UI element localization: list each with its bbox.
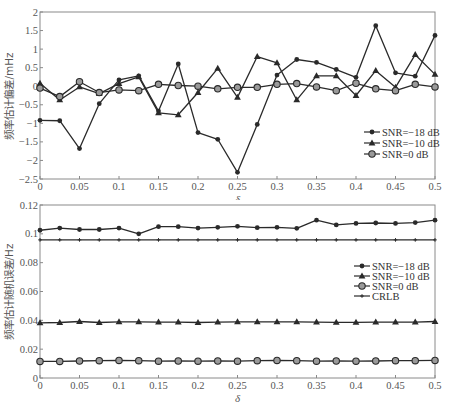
circle-marker-icon <box>333 358 339 364</box>
dot-marker-icon <box>373 221 378 226</box>
circle-marker-icon <box>392 358 398 364</box>
plus-marker-icon <box>275 238 279 242</box>
x-axis-label: δ <box>235 392 241 404</box>
plus-marker-icon <box>97 238 101 242</box>
plus-marker-icon <box>315 238 319 242</box>
dot-marker-icon <box>77 227 82 232</box>
circle-marker-icon <box>274 357 280 363</box>
circle-marker-icon <box>96 358 102 364</box>
y-tick-label: 0.12 <box>20 200 38 211</box>
triangle-marker-icon <box>76 318 83 324</box>
circle-marker-icon <box>359 283 365 289</box>
x-tick-label: 0.3 <box>270 380 283 391</box>
dot-marker-icon <box>413 220 418 225</box>
plus-marker-icon <box>38 238 42 242</box>
dot-marker-icon <box>176 224 181 229</box>
circle-marker-icon <box>136 358 142 364</box>
x-tick-label: 0.45 <box>386 380 404 391</box>
circle-marker-icon <box>76 358 82 364</box>
y-tick-label: 0 <box>33 373 38 384</box>
random-error-chart: 00.050.10.150.20.250.30.350.40.450.500.0… <box>0 0 453 410</box>
series-triangle <box>37 318 439 325</box>
dot-marker-icon <box>215 225 220 230</box>
y-tick-label: 0.02 <box>20 344 38 355</box>
circle-marker-icon <box>353 358 359 364</box>
legend-label: CRLB <box>372 291 399 302</box>
dot-marker-icon <box>275 225 280 230</box>
circle-marker-icon <box>254 358 260 364</box>
circle-marker-icon <box>234 358 240 364</box>
plus-marker-icon <box>360 294 364 298</box>
x-axis-ticks: 00.050.10.150.20.250.30.350.40.450.5 <box>37 375 441 391</box>
plus-marker-icon <box>413 238 417 242</box>
dot-marker-icon <box>57 226 62 231</box>
circle-marker-icon <box>195 358 201 364</box>
plus-marker-icon <box>117 238 121 242</box>
series-dot <box>38 218 438 236</box>
x-tick-label: 0.35 <box>307 380 325 391</box>
circle-marker-icon <box>373 358 379 364</box>
dot-marker-icon <box>354 221 359 226</box>
plus-marker-icon <box>334 238 338 242</box>
dot-marker-icon <box>196 226 201 231</box>
circle-marker-icon <box>432 357 438 363</box>
dot-marker-icon <box>136 231 141 236</box>
circle-marker-icon <box>215 358 221 364</box>
dot-marker-icon <box>255 225 260 230</box>
dot-marker-icon <box>314 218 319 223</box>
circle-marker-icon <box>116 357 122 363</box>
circle-marker-icon <box>155 358 161 364</box>
plus-marker-icon <box>236 238 240 242</box>
dot-marker-icon <box>334 222 339 227</box>
y-tick-label: 0.04 <box>20 315 39 326</box>
dot-marker-icon <box>235 224 240 229</box>
dot-marker-icon <box>156 224 161 229</box>
circle-marker-icon <box>412 358 418 364</box>
plus-marker-icon <box>58 238 62 242</box>
dot-marker-icon <box>38 228 43 233</box>
series-circle <box>37 357 438 364</box>
x-tick-label: 0.2 <box>191 380 204 391</box>
plus-marker-icon <box>394 238 398 242</box>
dot-marker-icon <box>294 226 299 231</box>
x-tick-label: 0 <box>37 380 42 391</box>
circle-marker-icon <box>57 358 63 364</box>
circle-marker-icon <box>313 358 319 364</box>
plus-marker-icon <box>196 238 200 242</box>
y-axis-ticks: 00.020.040.060.080.10.12 <box>20 200 43 384</box>
dot-marker-icon <box>393 221 398 226</box>
plus-marker-icon <box>176 238 180 242</box>
dot-marker-icon <box>360 264 365 269</box>
y-tick-label: 0.06 <box>20 286 38 297</box>
plus-marker-icon <box>433 238 437 242</box>
y-tick-label: 0.08 <box>20 257 38 268</box>
y-axis-label: 频率估计随机误差/Hz <box>3 243 15 340</box>
dot-marker-icon <box>97 227 102 232</box>
plus-marker-icon <box>157 238 161 242</box>
x-tick-label: 0.1 <box>112 380 125 391</box>
plus-marker-icon <box>374 238 378 242</box>
series-plus <box>38 238 437 242</box>
plus-marker-icon <box>137 238 141 242</box>
plus-marker-icon <box>295 238 299 242</box>
circle-marker-icon <box>294 358 300 364</box>
circle-marker-icon <box>37 358 43 364</box>
triangle-marker-icon <box>432 318 439 324</box>
legend: SNR=−18 dBSNR=−10 dBSNR=0 dBCRLB <box>354 261 430 302</box>
x-tick-label: 0.05 <box>70 380 88 391</box>
x-tick-label: 0.5 <box>428 380 441 391</box>
legend-item: CRLB <box>354 291 399 302</box>
figure: 00.050.10.150.20.250.30.350.40.450.5−2.5… <box>0 0 453 410</box>
dot-marker-icon <box>433 218 438 223</box>
x-tick-label: 0.15 <box>149 380 167 391</box>
dot-marker-icon <box>117 226 122 231</box>
plus-marker-icon <box>78 238 82 242</box>
circle-marker-icon <box>175 358 181 364</box>
plus-marker-icon <box>354 238 358 242</box>
plus-marker-icon <box>255 238 259 242</box>
plus-marker-icon <box>216 238 220 242</box>
y-tick-label: 0.1 <box>25 228 38 239</box>
x-tick-label: 0.4 <box>349 380 363 391</box>
x-tick-label: 0.25 <box>228 380 246 391</box>
